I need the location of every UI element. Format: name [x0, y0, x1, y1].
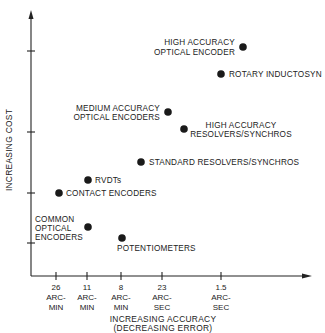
point-high-accuracy-optical-encoder	[239, 43, 247, 51]
point-potentiometers	[118, 234, 126, 242]
svg-text:SEC: SEC	[213, 303, 230, 312]
label-rvdts: RVDTs	[95, 176, 121, 185]
x-tick-labels: 26 ARC- MIN 11 ARC- MIN 8 ARC- MIN 23 AR…	[46, 283, 231, 312]
label-standard-resolvers: STANDARD RESOLVERS/SYNCHROS	[149, 158, 300, 167]
svg-text:OPTICAL ENCODERS: OPTICAL ENCODERS	[73, 113, 160, 122]
x-axis-arrow-icon	[302, 274, 312, 279]
point-high-accuracy-resolvers	[180, 125, 188, 133]
point-common-optical-encoders	[84, 223, 92, 231]
y-axis	[27, 16, 35, 276]
data-points	[55, 43, 247, 242]
svg-text:OPTICAL ENCODER: OPTICAL ENCODER	[154, 48, 235, 57]
label-medium-accuracy-optical-encoders: MEDIUM ACCURACY	[76, 104, 160, 113]
label-potentiometers: POTENTIOMETERS	[117, 244, 196, 253]
svg-text:26: 26	[52, 283, 61, 292]
x-axis-subtitle: (DECREASING ERROR)	[114, 323, 213, 333]
svg-text:RESOLVERS/SYNCHROS: RESOLVERS/SYNCHROS	[190, 130, 292, 139]
svg-text:MIN: MIN	[49, 303, 64, 312]
svg-text:ARC-: ARC-	[111, 293, 131, 302]
point-standard-resolvers	[137, 158, 145, 166]
svg-text:OPTICAL: OPTICAL	[35, 224, 72, 233]
y-axis-arrow-icon	[29, 10, 34, 19]
svg-text:ARC-: ARC-	[152, 293, 172, 302]
svg-text:11: 11	[83, 283, 92, 292]
x-axis	[31, 272, 306, 280]
svg-text:1.5: 1.5	[215, 283, 227, 292]
point-contact-encoders	[55, 189, 63, 197]
svg-text:ENCODERS: ENCODERS	[35, 233, 83, 242]
label-common-optical-encoders: COMMON	[35, 215, 74, 224]
chart: 26 ARC- MIN 11 ARC- MIN 8 ARC- MIN 23 AR…	[0, 0, 325, 333]
point-labels: HIGH ACCURACY OPTICAL ENCODER ROTARY IND…	[35, 38, 322, 253]
svg-text:SEC: SEC	[154, 303, 171, 312]
point-medium-accuracy-optical-encoders	[164, 108, 172, 116]
label-high-accuracy-optical-encoder: HIGH ACCURACY	[164, 38, 235, 47]
point-rvdts	[84, 176, 92, 184]
y-axis-title: INCREASING COST	[4, 109, 14, 191]
svg-text:8: 8	[119, 283, 124, 292]
svg-text:23: 23	[158, 283, 167, 292]
svg-text:MIN: MIN	[114, 303, 129, 312]
label-high-accuracy-resolvers: HIGH ACCURACY	[206, 121, 277, 130]
svg-text:MIN: MIN	[80, 303, 95, 312]
label-contact-encoders: CONTACT ENCODERS	[66, 189, 157, 198]
svg-text:ARC-: ARC-	[46, 293, 66, 302]
point-rotary-inductosyn	[217, 70, 225, 78]
svg-text:ARC-: ARC-	[77, 293, 97, 302]
label-rotary-inductosyn: ROTARY INDUCTOSYN	[229, 70, 322, 79]
svg-text:ARC-: ARC-	[211, 293, 231, 302]
